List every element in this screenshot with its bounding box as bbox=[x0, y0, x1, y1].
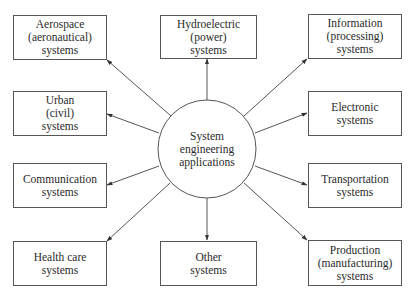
node-label-line: (aeronautical) bbox=[28, 31, 92, 44]
center-node: System engineering applications bbox=[158, 100, 256, 198]
node-label-line: systems bbox=[337, 186, 373, 199]
center-label-line: applications bbox=[179, 156, 235, 169]
node-label-line: Communication bbox=[23, 173, 97, 186]
arrow-to-transportation bbox=[255, 166, 307, 185]
node-label-line: systems bbox=[337, 43, 373, 56]
arrow-to-urban bbox=[107, 114, 159, 133]
arrow-to-communication bbox=[107, 166, 159, 185]
node-label-line: systems bbox=[42, 120, 78, 133]
node-label-line: Urban bbox=[46, 94, 75, 107]
node-aerospace: Aerospace (aeronautical) systems bbox=[13, 15, 107, 60]
node-label-line: Information bbox=[328, 17, 383, 30]
center-label-line: System bbox=[190, 130, 224, 143]
node-label-line: Electronic bbox=[331, 101, 378, 114]
node-label-line: (power) bbox=[190, 31, 226, 44]
node-label-line: systems bbox=[337, 270, 373, 283]
node-urban: Urban (civil) systems bbox=[13, 91, 107, 136]
node-label-line: Aerospace bbox=[36, 18, 85, 31]
node-transportation: Transportation systems bbox=[308, 163, 402, 208]
node-hydroelectric: Hydroelectric (power) systems bbox=[160, 15, 257, 59]
node-label-line: Health care bbox=[34, 251, 87, 264]
node-label-line: systems bbox=[337, 114, 373, 127]
node-label-line: (manufacturing) bbox=[318, 257, 393, 270]
node-label-line: systems bbox=[190, 264, 226, 277]
node-information: Information (processing) systems bbox=[308, 14, 402, 59]
center-label-line: engineering bbox=[180, 143, 234, 156]
node-label-line: (civil) bbox=[46, 107, 74, 120]
node-label-line: (processing) bbox=[327, 30, 384, 43]
node-communication: Communication systems bbox=[13, 163, 107, 208]
node-label-line: Transportation bbox=[321, 173, 388, 186]
node-label-line: systems bbox=[42, 264, 78, 277]
node-label-line: systems bbox=[190, 44, 226, 57]
node-health-care: Health care systems bbox=[13, 241, 107, 286]
node-label-line: Hydroelectric bbox=[177, 18, 240, 31]
system-engineering-diagram: System engineering applications Aerospac… bbox=[0, 0, 415, 297]
node-other: Other systems bbox=[160, 241, 257, 286]
node-label-line: Production bbox=[330, 244, 380, 257]
node-production: Production (manufacturing) systems bbox=[308, 240, 402, 286]
node-electronic: Electronic systems bbox=[308, 91, 402, 136]
arrow-to-electronic bbox=[255, 113, 307, 133]
node-label-line: systems bbox=[42, 186, 78, 199]
node-label-line: Other bbox=[195, 251, 221, 264]
node-label-line: systems bbox=[42, 44, 78, 57]
